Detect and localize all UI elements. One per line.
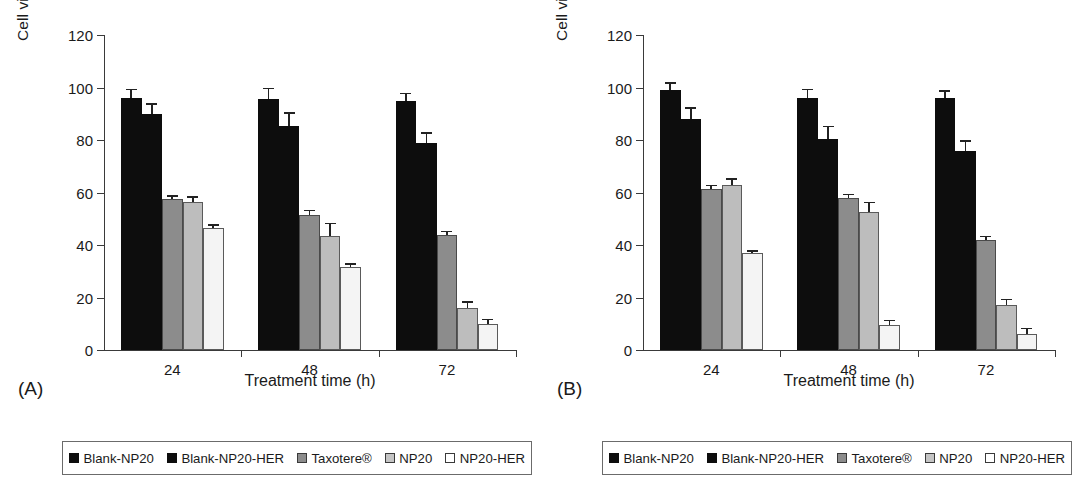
legend-item-label: NP20-HER (1000, 451, 1065, 466)
x-tick (241, 350, 242, 357)
error-bar-cap (263, 88, 274, 90)
bar (457, 308, 478, 350)
error-bar-cap (960, 140, 971, 142)
panel-a: Cell viability (%) 020406080100120244872… (0, 0, 540, 430)
x-tick (780, 350, 781, 357)
error-bar-cap (284, 112, 295, 114)
open-white-square-icon (985, 453, 995, 463)
y-axis-label-a: Cell viability (%) (14, 0, 32, 95)
legend-item-label: Taxotere® (851, 451, 911, 466)
legend-item: Blank-NP20 (69, 451, 154, 466)
bar (660, 90, 681, 350)
bar (299, 215, 320, 350)
bar (879, 325, 900, 350)
x-tick (1055, 350, 1056, 357)
y-tick-label: 80 (615, 132, 632, 149)
filled-light-gray-square-icon (385, 453, 395, 463)
error-bar-cap (126, 89, 137, 91)
bar (258, 99, 279, 350)
panel-b: Cell viability (%) 020406080100120244872… (539, 0, 1079, 430)
error-bar-cap (665, 82, 676, 84)
legend-b: Blank-NP20Blank-NP20-HERTaxotere®NP20NP2… (602, 441, 1072, 475)
error-bar-cap (884, 320, 895, 322)
x-axis-line-a (104, 350, 516, 351)
error-bar-cap (325, 223, 336, 225)
y-axis-line-a (104, 35, 105, 351)
y-tick-120 (97, 35, 104, 36)
bar (818, 139, 839, 350)
y-tick-label: 0 (624, 342, 632, 359)
bar (742, 253, 763, 350)
legend-item-label: NP20-HER (460, 451, 525, 466)
error-bar-cap (400, 93, 411, 95)
y-tick-20 (636, 298, 643, 299)
figure-root: Cell viability (%) 020406080100120244872… (0, 0, 1079, 500)
y-tick-label: 40 (76, 237, 93, 254)
y-tick-label: 80 (76, 132, 93, 149)
bar (996, 305, 1017, 350)
y-tick-60 (636, 193, 643, 194)
legend-item-label: Taxotere® (311, 451, 371, 466)
y-tick-80 (97, 140, 104, 141)
filled-black-square-icon (167, 453, 177, 463)
y-tick-label: 20 (76, 289, 93, 306)
filled-dark-gray-square-icon (297, 453, 307, 463)
bar (935, 98, 956, 350)
error-bar-cap (980, 236, 991, 238)
legend-item: NP20 (925, 451, 973, 466)
y-tick-0 (636, 350, 643, 351)
bar (701, 189, 722, 350)
legend-item-label: NP20 (399, 451, 432, 466)
error-bar-cap (1001, 299, 1012, 301)
bar (976, 240, 997, 350)
legend-item: NP20 (385, 451, 433, 466)
y-tick-label: 20 (615, 289, 632, 306)
legend-item: NP20-HER (445, 451, 525, 466)
legend-item-label: Blank-NP20-HER (181, 451, 284, 466)
error-bar-cap (462, 301, 473, 303)
y-tick-100 (636, 88, 643, 89)
bar (478, 324, 499, 350)
x-tick (379, 350, 380, 357)
filled-black-square-icon (69, 453, 79, 463)
bar (162, 199, 183, 350)
y-tick-label: 120 (68, 27, 93, 44)
bar (183, 202, 204, 350)
panel-label-b: (B) (557, 378, 582, 400)
error-bar-stem (268, 88, 270, 100)
legend-item-label: Blank-NP20 (84, 451, 154, 466)
error-bar-cap (843, 194, 854, 196)
y-tick-label: 120 (607, 27, 632, 44)
legend-item: NP20-HER (985, 451, 1065, 466)
x-tick (516, 350, 517, 357)
x-axis-line-b (643, 350, 1055, 351)
y-axis-label-b: Cell viability (%) (553, 0, 571, 95)
legend-item: Blank-NP20 (609, 451, 694, 466)
x-axis-label-a: Treatment time (h) (104, 372, 516, 390)
error-bar-cap (1021, 328, 1032, 330)
legend-item: Blank-NP20-HER (707, 451, 824, 466)
y-tick-40 (636, 245, 643, 246)
filled-black-square-icon (707, 453, 717, 463)
error-bar-stem (288, 112, 290, 125)
error-bar-cap (823, 126, 834, 128)
error-bar-cap (421, 132, 432, 134)
error-bar-cap (304, 210, 315, 212)
bar (320, 236, 341, 350)
plot-area-b: 020406080100120244872 (643, 35, 1055, 350)
y-tick-20 (97, 298, 104, 299)
filled-light-gray-square-icon (925, 453, 935, 463)
error-bar-cap (345, 263, 356, 265)
y-axis-line-b (643, 35, 644, 351)
error-bar-stem (827, 126, 829, 139)
error-bar-stem (329, 223, 331, 236)
error-bar-cap (802, 89, 813, 91)
error-bar-cap (441, 231, 452, 233)
x-axis-label-b: Treatment time (h) (643, 372, 1055, 390)
error-bar-cap (864, 202, 875, 204)
error-bar-cap (939, 90, 950, 92)
y-tick-80 (636, 140, 643, 141)
bar (203, 228, 224, 350)
legend-item-label: Blank-NP20-HER (721, 451, 824, 466)
bar (416, 143, 437, 350)
